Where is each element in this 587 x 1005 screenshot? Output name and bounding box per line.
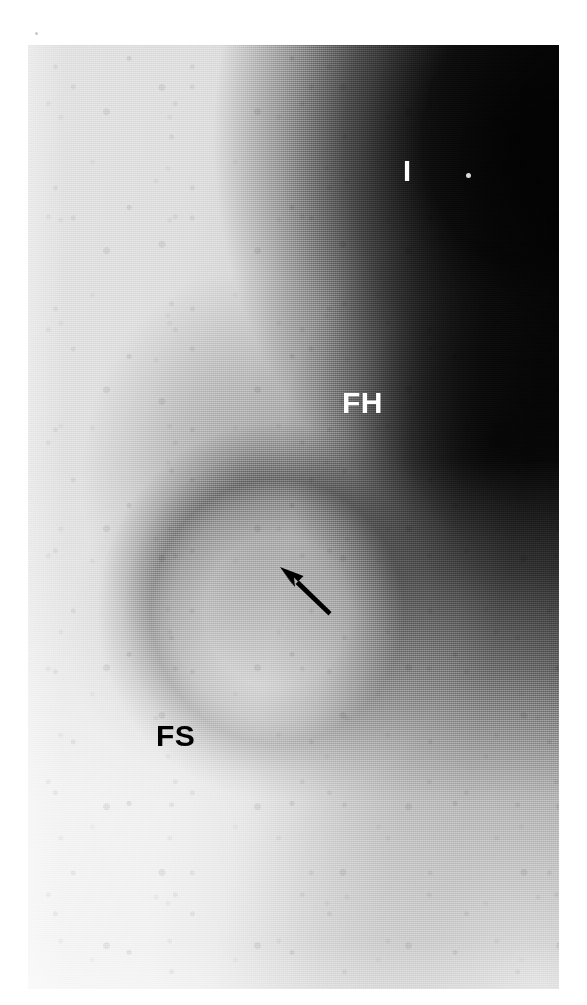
film-grain-layer: [28, 45, 559, 989]
annotation-arrow-icon: [273, 557, 345, 629]
figure-root: I FH FS: [0, 0, 587, 1005]
film-base-tone-layer: [28, 45, 559, 989]
page-dust-speck: [35, 32, 38, 35]
annotation-label-femoral-head: FH: [342, 388, 383, 418]
ilium-dark-mass-layer: [28, 45, 559, 989]
femoral-shaft-bright-layer: [28, 45, 559, 989]
soft-tissue-fade-layer: [28, 45, 559, 989]
joint-line-arc-layer: [28, 45, 559, 989]
acetabulum-shadow-layer: [28, 45, 559, 989]
annotation-label-ilium: I: [403, 157, 411, 186]
radiograph-image: I FH FS: [28, 45, 559, 989]
annotation-label-femoral-shaft: FS: [156, 721, 195, 751]
femoral-head-shading-layer: [28, 45, 559, 989]
trabecular-speckle-layer: [28, 45, 559, 989]
film-dust-speck: [466, 173, 471, 178]
film-vignette-layer: [28, 45, 559, 989]
